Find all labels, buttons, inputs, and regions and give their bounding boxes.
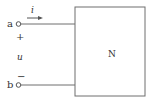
circuit-diagram: i a b + u − N [0,0,156,111]
plus-sign: + [16,31,24,42]
voltage-label: u [17,52,23,62]
current-label: i [31,5,34,15]
circuit-svg: i a b + u − N [0,0,156,111]
minus-sign: − [17,71,25,82]
terminal-b-circle [16,83,21,88]
terminal-a-label: a [7,18,13,29]
arrowhead-icon [38,16,43,20]
network-label: N [108,49,116,59]
terminal-b-label: b [7,79,13,90]
terminal-a-circle [16,22,21,27]
